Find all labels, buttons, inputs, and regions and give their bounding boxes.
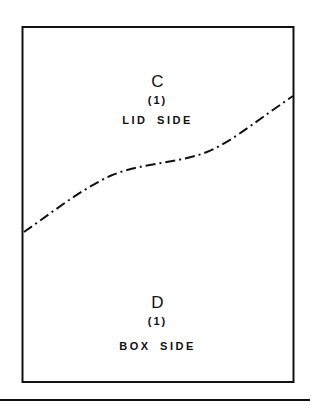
lower-region-letter: D xyxy=(22,293,293,313)
lid-side-label: LID SIDE xyxy=(22,114,293,126)
lower-region-number: (1) xyxy=(22,315,293,327)
box-side-label: BOX SIDE xyxy=(22,340,293,352)
upper-region-letter: C xyxy=(22,72,293,92)
upper-region-number: (1) xyxy=(22,94,293,106)
